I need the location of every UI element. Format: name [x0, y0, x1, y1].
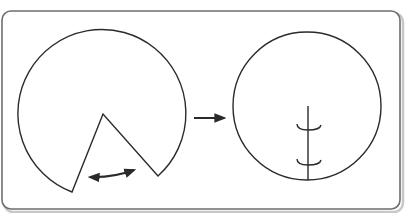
- dart-closing-diagram: [0, 0, 412, 213]
